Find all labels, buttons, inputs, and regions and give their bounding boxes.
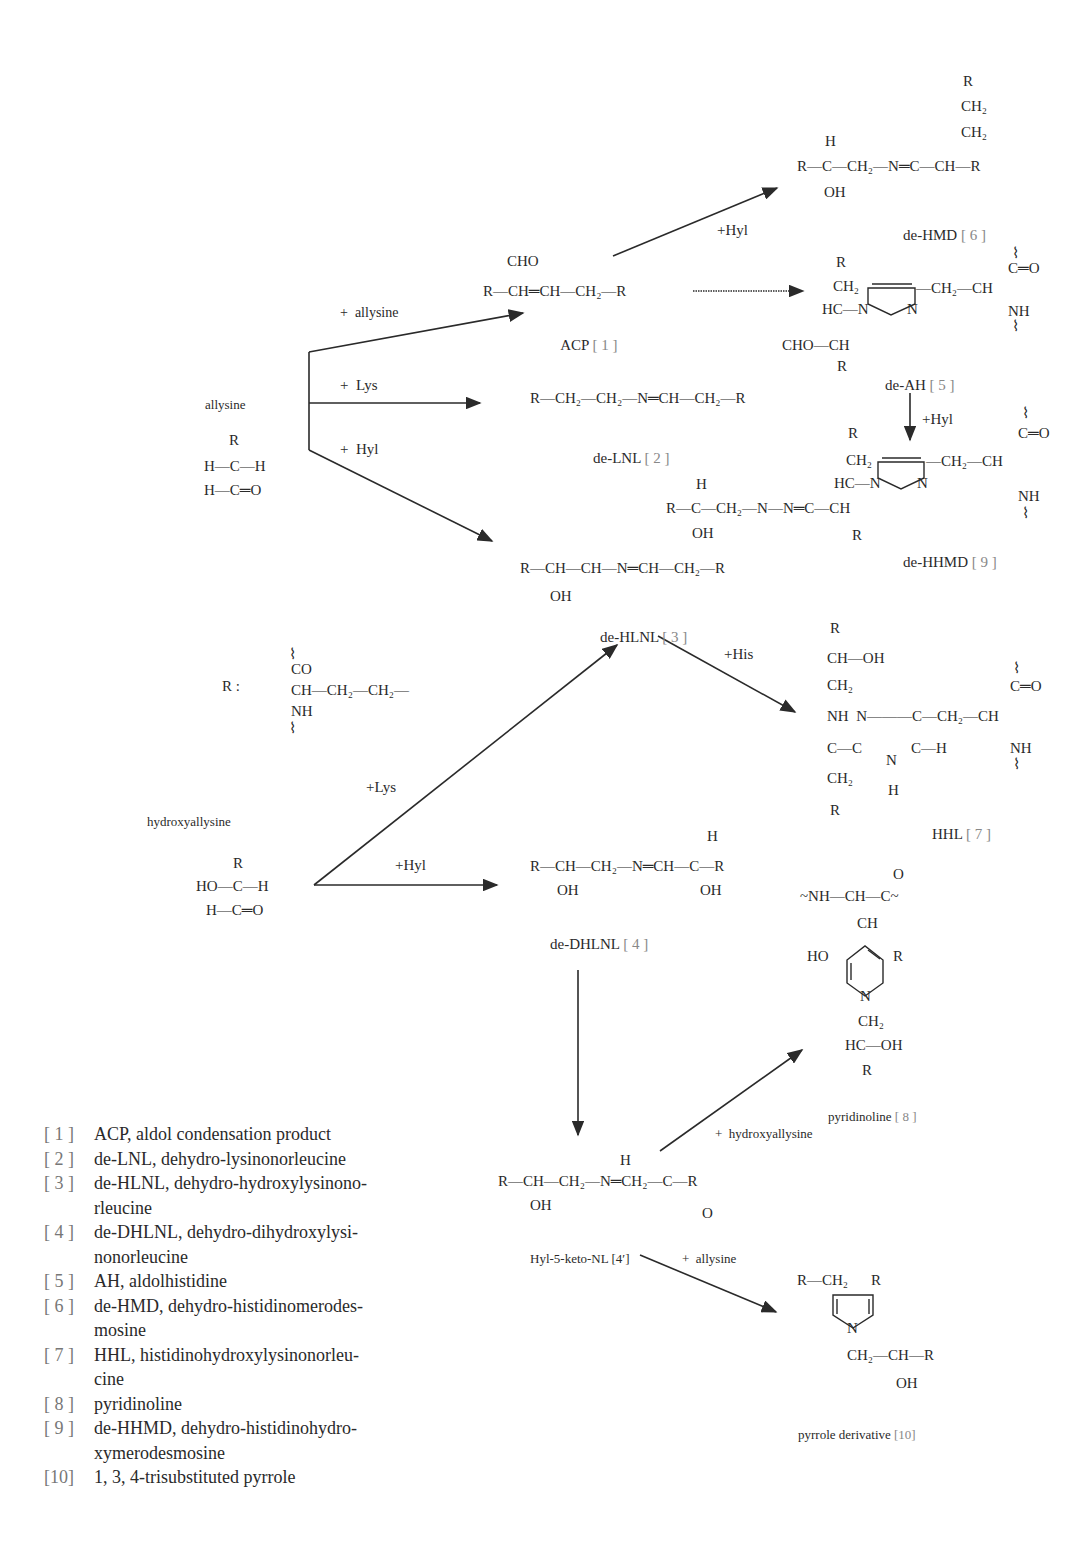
legend-item: [ 9 ]de-HHMD, dehydro-histidinohydro- [44,1416,484,1441]
reagent-his: +His [724,645,753,663]
legend-item: [ 7 ]HHL, histidinohydroxylysinonorleu- [44,1343,484,1368]
reagent-hyl: + Hyl [340,440,378,458]
legend-item: [ 3 ]de-HLNL, dehydro-hydroxylysinono- [44,1171,484,1196]
hydroxyallysine-label: hydroxyallysine [147,813,231,831]
legend-item: [ 1 ]ACP, aldol condensation product [44,1122,484,1147]
legend-item: [ 8 ]pyridinoline [44,1392,484,1417]
reagent-hyl-2: +Hyl [395,856,426,874]
legend-item: [ 2 ]de-LNL, dehydro-lysinonorleucine [44,1147,484,1172]
reagent-lys-2: +Lys [366,778,396,796]
legend-item: [ 5 ]AH, aldolhistidine [44,1269,484,1294]
legend-item: [10]1, 3, 4-trisubstituted pyrrole [44,1465,484,1490]
compound-legend: [ 1 ]ACP, aldol condensation product [ 2… [44,1122,484,1490]
reagent-allysine-2: + allysine [682,1250,736,1268]
reagent-hyl-acp: +Hyl [717,221,748,239]
reagent-lys: + Lys [340,376,378,394]
reagent-allysine: + allysine [340,304,398,322]
legend-item: [ 4 ]de-DHLNL, dehydro-dihydroxylysi- [44,1220,484,1245]
legend-item: [ 6 ]de-HMD, dehydro-histidinomerodes- [44,1294,484,1319]
allysine-label: allysine [205,396,245,414]
reagent-hydroxyallysine: + hydroxyallysine [715,1125,813,1143]
reagent-hyl-deah: +Hyl [922,410,953,428]
